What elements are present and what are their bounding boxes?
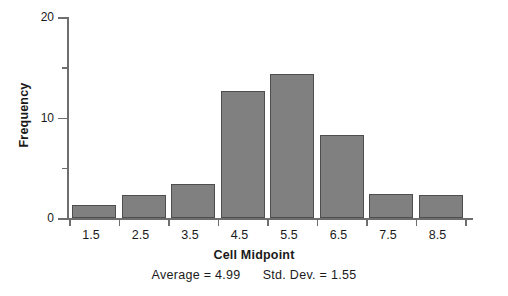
histogram-bar [221,91,265,218]
x-tick-label: 1.5 [82,229,99,242]
stddev-statistic: Std. Dev. = 1.55 [263,268,357,282]
x-tick-label: 3.5 [181,229,198,242]
x-tick-label: 7.5 [379,229,396,242]
x-tick-label: 5.5 [280,229,297,242]
x-tick [317,218,319,226]
histogram-bar [320,135,364,218]
x-tick [218,218,220,226]
x-tick [168,218,170,226]
x-axis-title: Cell Midpoint [0,248,508,262]
x-axis-line [58,218,473,220]
plot-area: 01020 1.52.53.54.55.56.57.58.5 [67,17,473,218]
x-tick-label: 4.5 [231,229,248,242]
bar-series [72,17,473,218]
x-tick [119,218,121,226]
histogram-bar [122,195,166,218]
x-tick-label: 2.5 [132,229,149,242]
y-tick-minor [62,168,67,170]
histogram-bar [72,205,116,218]
y-tick-label: 20 [41,11,54,23]
x-tick [416,218,418,226]
y-axis-title: Frequency [14,60,32,170]
y-tick-label: 0 [47,212,54,224]
y-tick-major [58,218,67,220]
histogram-bar [369,194,413,218]
x-tick [69,218,71,226]
x-tick [465,218,467,226]
x-tick [366,218,368,226]
y-axis-line [67,17,69,218]
x-tick [267,218,269,226]
histogram-figure: Frequency 01020 1.52.53.54.55.56.57.58.5… [0,0,508,296]
average-statistic: Average = 4.99 [152,268,241,282]
y-tick-minor [62,67,67,69]
histogram-bar [419,195,463,218]
histogram-bar [270,74,314,218]
x-tick-label: 6.5 [330,229,347,242]
y-tick-major [58,118,67,120]
y-tick-label: 10 [41,112,54,124]
y-axis-title-text: Frequency [16,82,30,147]
y-tick-major [58,17,67,19]
histogram-bar [171,184,215,218]
x-tick-label: 8.5 [429,229,446,242]
statistics-caption: Average = 4.99 Std. Dev. = 1.55 [0,268,508,282]
